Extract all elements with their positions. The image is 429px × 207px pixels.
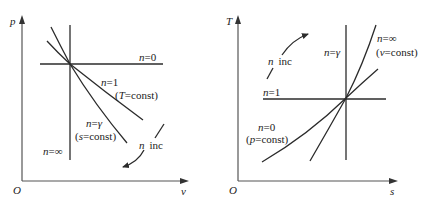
n-inc-arrow-icon <box>282 34 308 55</box>
n-inc-tick <box>155 124 164 138</box>
label-n1-desc: (T=const) <box>115 89 158 102</box>
n-inc-arrow-icon <box>123 150 144 167</box>
v-axis-label: v <box>181 185 186 197</box>
label-n0-desc: (p=const) <box>246 133 289 146</box>
isobar-curve-n0 <box>262 69 378 162</box>
s-axis-label: s <box>390 185 394 197</box>
polytropic-diagrams: p O v n=0 n=1 (T=const) n=γ (s=const) n=… <box>0 0 429 207</box>
s-axis-arrow-icon <box>389 178 398 184</box>
label-n0: n=0 <box>139 51 157 63</box>
origin-label: O <box>13 184 21 196</box>
pv-diagram: p O v n=0 n=1 (T=const) n=γ (s=const) n=… <box>9 15 189 197</box>
label-ngamma: n=γ <box>86 117 103 129</box>
ts-diagram: T O s n=1 n=γ n=∞ (v=const) n=0 (p=const… <box>226 15 418 197</box>
T-axis-arrow-icon <box>235 15 241 24</box>
label-n-inc: ninc <box>268 55 292 67</box>
isotherm-curve-n1 <box>47 41 143 120</box>
p-axis-arrow-icon <box>19 15 25 24</box>
label-ngamma-desc: (s=const) <box>75 130 116 143</box>
origin-label: O <box>229 184 237 196</box>
label-n1: n=1 <box>263 86 280 98</box>
label-ninf: n=∞ <box>43 145 63 157</box>
label-n-inc: ninc <box>139 139 163 151</box>
label-ninf: n=∞ <box>377 32 397 44</box>
v-axis-arrow-icon <box>180 178 189 184</box>
label-n0: n=0 <box>258 121 276 133</box>
p-axis-label: p <box>9 15 16 27</box>
isochore-curve-ninf <box>310 25 376 161</box>
n-inc-tick <box>267 68 273 79</box>
label-ngamma: n=γ <box>324 46 341 58</box>
T-axis-label: T <box>226 15 233 27</box>
label-ninf-desc: (v=const) <box>376 46 418 59</box>
label-n1: n=1 <box>101 76 118 88</box>
